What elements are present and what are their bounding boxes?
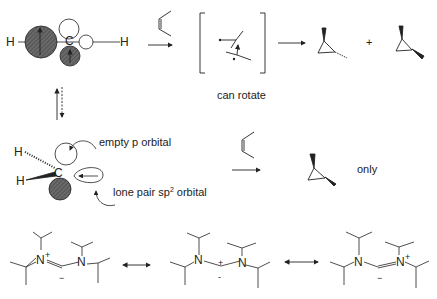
- equilibrium-arrow: [57, 87, 62, 120]
- plus-sign: +: [366, 37, 372, 48]
- res1-n-left: N: [36, 254, 45, 266]
- trans-cyclopropane: [318, 28, 347, 58]
- atom-c-middle: C: [54, 167, 63, 179]
- atom-c-top: C: [65, 35, 74, 47]
- res2-c-charge-top: +: [218, 259, 223, 268]
- res1-n-right: N: [77, 256, 86, 268]
- res3-c-charge: −: [377, 274, 382, 283]
- empty-p-orbital-label: empty p orbital: [99, 137, 171, 148]
- bracket-intermediate: [200, 13, 265, 73]
- only-label: only: [357, 164, 377, 175]
- atom-h-hash: H: [14, 146, 23, 158]
- cis-butene-middle: [242, 132, 254, 158]
- cis-butene-top: [159, 11, 171, 36]
- atom-h-wedge: H: [16, 175, 25, 187]
- lone-pair-suffix: orbital: [174, 186, 207, 198]
- atom-h-right: H: [120, 36, 129, 48]
- res1-n-charge: +: [45, 251, 50, 260]
- cis-cyclopropane-only: [308, 154, 336, 186]
- cis-cyclopropane: [396, 26, 424, 59]
- atom-h-left: H: [6, 36, 15, 48]
- can-rotate-label: can rotate: [217, 90, 266, 101]
- lone-pair-prefix: lone pair sp: [113, 186, 170, 198]
- res2-n-left: N: [194, 254, 203, 266]
- res3-n-charge: +: [405, 253, 410, 262]
- res3-n-right: N: [396, 256, 405, 268]
- res3-n-left: N: [354, 256, 363, 268]
- singlet-carbene-orbitals: [25, 141, 115, 206]
- lone-pair-label: lone pair sp2 orbital: [113, 187, 207, 198]
- res2-c-charge-bottom: -: [218, 273, 221, 282]
- res2-n-right: N: [238, 257, 247, 269]
- lone-pair-sup: 2: [170, 186, 174, 193]
- res1-c-charge: −: [59, 274, 64, 283]
